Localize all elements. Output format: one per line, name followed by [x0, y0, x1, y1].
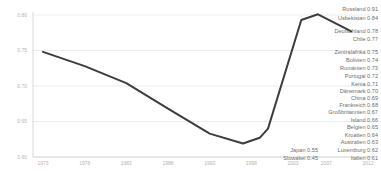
y-axis-tick-label: 0.60 — [17, 154, 27, 160]
legend-entry: Bolivien 0.74 — [346, 57, 378, 63]
x-axis-tick-label: 1983 — [121, 160, 132, 166]
x-axis-tick-label: 1978 — [79, 160, 90, 166]
series-line-deutschland — [43, 14, 351, 143]
legend-entry: Dänemark 0.70 — [340, 88, 378, 94]
x-axis-tick-label: 1988 — [162, 160, 173, 166]
legend-entry: Portugal 0.72 — [345, 73, 378, 79]
x-axis-tick-label: 1973 — [37, 160, 48, 166]
legend-entry: Kroatien 0.64 — [345, 132, 378, 138]
chart-container: 0.800.750.700.650.6019731978198319881993… — [0, 0, 381, 173]
legend-entry: Großbritannien 0.67 — [328, 109, 378, 115]
legend-entry: Deutschland 0.78 — [334, 28, 378, 34]
legend-entry: Usbekistan 0.84 — [338, 15, 378, 21]
x-axis-tick-label: 1998 — [246, 160, 257, 166]
chart-svg: 0.800.750.700.650.6019731978198319881993… — [0, 0, 381, 173]
legend-entry: Frankreich 0.68 — [339, 102, 378, 108]
legend-entry: China 0.69 — [351, 95, 378, 101]
legend-entry-offset: Slowakei 0.45 — [283, 155, 318, 161]
legend-entry: Rumänien 0.73 — [340, 65, 378, 71]
y-axis-tick-label: 0.80 — [17, 12, 27, 18]
legend-entry: Italien 0.61 — [351, 155, 378, 161]
legend-entry: Belgien 0.65 — [347, 124, 378, 130]
y-axis-tick-label: 0.75 — [17, 47, 27, 53]
legend-entry: Chile 0.77 — [353, 36, 378, 42]
y-axis-tick-label: 0.70 — [17, 83, 27, 89]
legend-entry: Australien 0.63 — [341, 139, 378, 145]
legend-entry: Island 0.66 — [351, 117, 378, 123]
legend-entry: Zentralafrika 0.75 — [334, 49, 378, 55]
legend-entry: Luxemburg 0.62 — [338, 147, 378, 153]
legend-entry: Kenia 0.71 — [351, 81, 378, 87]
x-axis-tick-label: 1993 — [204, 160, 215, 166]
x-axis-tick-label: 2007 — [321, 160, 332, 166]
y-axis-tick-label: 0.65 — [17, 118, 27, 124]
legend-entry-offset: Japan 0.55 — [290, 147, 318, 153]
legend-entry: Russland 0.91 — [342, 6, 378, 12]
